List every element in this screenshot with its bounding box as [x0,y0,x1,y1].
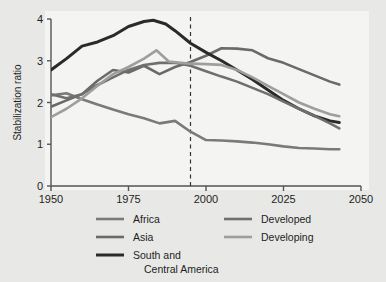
y-axis-tick-label: 3 [37,55,43,67]
x-axis-tick-label: 1950 [39,193,63,205]
legend-label-developing: Developing [261,231,314,243]
x-axis-tick-label: 2025 [271,193,295,205]
legend-label-south-and: South and [133,249,181,261]
legend-label-asia: Asia [133,231,154,243]
y-axis-tick-label: 0 [37,180,43,192]
x-axis-tick-label: 1975 [116,193,140,205]
y-axis-tick-label: 1 [37,138,43,150]
stabilization-ratio-line-chart: 0123419501975200020252050Stabilization r… [0,0,386,282]
legend-label-central-america: Central America [144,263,219,275]
legend-label-developed: Developed [261,213,311,225]
y-axis-title: Stabilization ratio [12,64,23,141]
x-axis-tick-label: 2050 [349,193,373,205]
x-axis-tick-label: 2000 [194,193,218,205]
y-axis-tick-label: 4 [37,13,43,25]
plot-background [45,11,369,190]
legend-label-africa: Africa [133,213,160,225]
y-axis-tick-label: 2 [37,97,43,109]
chart-figure: 0123419501975200020252050Stabilization r… [0,0,386,282]
